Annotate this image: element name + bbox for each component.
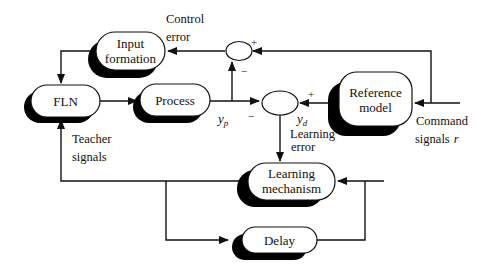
control-error-label-2: error	[166, 30, 191, 44]
block-process: Process	[133, 84, 210, 123]
yd-label: yd	[295, 111, 308, 128]
fln-control-diagram: Input formation FLN Process Reference mo…	[0, 0, 494, 275]
block-reference-model: Reference model	[328, 72, 412, 136]
fln-label: FLN	[53, 94, 78, 109]
block-learning-mechanism: Learning mechanism	[237, 163, 335, 207]
arrow-to-delay	[166, 181, 228, 240]
learning-mechanism-label-2: mechanism	[262, 181, 321, 196]
reference-model-label-2: model	[359, 100, 392, 115]
command-signals-label-1: Command	[416, 114, 469, 128]
summing-junction-control: + −	[226, 36, 257, 77]
teacher-signals-label-2: signals	[72, 150, 107, 164]
learning-mechanism-label-1: Learning	[268, 166, 315, 181]
learning-plus-sign: +	[308, 88, 314, 100]
learning-minus-sign: −	[248, 110, 254, 122]
summing-junction-learning: + −	[248, 88, 314, 122]
control-plus-sign: +	[251, 36, 257, 48]
yp-label: yp	[216, 111, 229, 128]
reference-model-label-1: Reference	[349, 85, 402, 100]
input-formation-label-2: formation	[105, 51, 157, 66]
input-formation-label-1: Input	[117, 36, 145, 51]
command-signals-label-2: signalsr	[415, 132, 459, 146]
teacher-signals-label-1: Teacher	[72, 132, 112, 146]
block-delay: Delay	[232, 227, 317, 260]
learning-error-label-1: Learning	[290, 127, 336, 141]
control-error-label-1: Control	[166, 12, 205, 26]
delay-label: Delay	[264, 233, 296, 248]
control-minus-sign: −	[241, 65, 247, 77]
block-input-formation: Input formation	[88, 32, 165, 78]
block-fln: FLN	[24, 85, 100, 123]
learning-error-label-2: error	[291, 140, 316, 154]
process-label: Process	[155, 93, 195, 108]
